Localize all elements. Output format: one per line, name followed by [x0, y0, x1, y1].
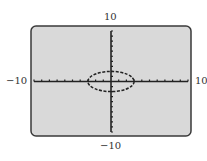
- calculator-graph-screen: [0, 0, 207, 161]
